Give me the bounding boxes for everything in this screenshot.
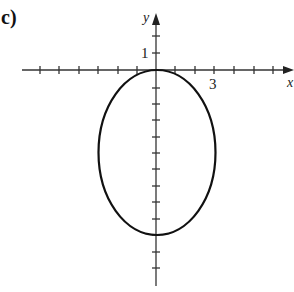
panel-label: c)	[1, 6, 17, 29]
x-axis-label: x	[286, 75, 294, 90]
y-axis-label: y	[141, 10, 150, 25]
y-axis-arrow-icon	[152, 13, 160, 25]
x-tick-label-3: 3	[209, 76, 217, 92]
y-axis	[152, 20, 160, 286]
ellipse-graph: c) y x	[0, 0, 294, 292]
x-axis-arrow-icon	[283, 66, 294, 74]
y-tick-label-1: 1	[141, 45, 149, 61]
